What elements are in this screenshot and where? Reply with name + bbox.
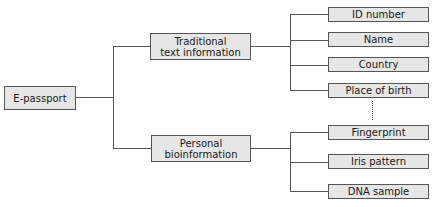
connector-to-name bbox=[290, 40, 328, 41]
node-label: Place of birth bbox=[345, 85, 411, 96]
connector-to-dna-sample bbox=[290, 191, 328, 192]
connector-root-vertical bbox=[113, 46, 114, 149]
node-place-of-birth: Place of birth bbox=[328, 83, 429, 98]
node-label: Iris pattern bbox=[351, 156, 406, 167]
node-name: Name bbox=[328, 32, 429, 47]
connector-to-iris-pattern bbox=[290, 162, 328, 163]
node-label: Name bbox=[364, 34, 394, 45]
node-iris-pattern: Iris pattern bbox=[328, 154, 429, 169]
node-label: ID number bbox=[352, 9, 405, 20]
node-label-line1: Traditional bbox=[174, 36, 226, 47]
node-id-number: ID number bbox=[328, 7, 429, 22]
connector-root-out bbox=[76, 97, 114, 98]
node-label: Country bbox=[359, 59, 399, 70]
ellipsis-dotted-line bbox=[372, 101, 373, 120]
connector-to-traditional bbox=[113, 46, 151, 47]
connector-to-country bbox=[290, 65, 328, 66]
node-label: E-passport bbox=[13, 93, 66, 104]
connector-to-fingerprint bbox=[290, 132, 328, 133]
node-country: Country bbox=[328, 57, 429, 72]
node-label: Fingerprint bbox=[351, 127, 405, 138]
node-dna-sample: DNA sample bbox=[328, 184, 429, 199]
node-fingerprint: Fingerprint bbox=[328, 125, 429, 140]
connector-personal-out bbox=[251, 148, 291, 149]
node-label-line1: Personal bbox=[180, 138, 223, 149]
connector-traditional-vertical bbox=[290, 14, 291, 91]
node-personal-bioinformation: Personal bioinformation bbox=[151, 135, 251, 162]
node-label: DNA sample bbox=[348, 186, 410, 197]
connector-traditional-out bbox=[251, 46, 291, 47]
node-label-line2: text information bbox=[160, 47, 241, 58]
node-traditional-text-information: Traditional text information bbox=[150, 33, 251, 60]
connector-to-id-number bbox=[290, 14, 328, 15]
node-label-line2: bioinformation bbox=[165, 149, 238, 160]
connector-to-personal bbox=[113, 148, 151, 149]
connector-to-place-of-birth bbox=[290, 90, 328, 91]
node-e-passport: E-passport bbox=[4, 86, 76, 110]
